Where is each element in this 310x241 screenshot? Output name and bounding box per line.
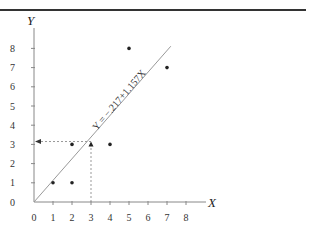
data-point: [108, 143, 112, 147]
arrowhead-icon: [35, 139, 41, 144]
y-axis-label: Y: [27, 13, 36, 28]
y-tick-label: 2: [10, 158, 15, 169]
scatter-chart: YX012345678012345678Y = −.217+1.157X: [0, 0, 310, 241]
x-axis-label: X: [207, 195, 217, 210]
x-tick-label: 2: [70, 212, 75, 223]
y-tick-label: 7: [10, 62, 15, 73]
y-tick-label: 3: [10, 139, 15, 150]
y-tick-label: 0: [10, 197, 15, 208]
data-point: [70, 143, 74, 147]
x-tick-label: 1: [51, 212, 56, 223]
data-point: [70, 181, 74, 185]
x-tick-label: 5: [127, 212, 132, 223]
x-tick-label: 3: [89, 212, 94, 223]
x-tick-label: 4: [108, 212, 113, 223]
y-tick-label: 8: [10, 43, 15, 54]
data-point: [127, 47, 131, 51]
data-point: [51, 181, 55, 185]
x-tick-label: 8: [184, 212, 189, 223]
x-tick-label: 0: [32, 212, 37, 223]
data-point: [165, 66, 169, 70]
y-tick-label: 4: [10, 120, 15, 131]
y-tick-label: 6: [10, 81, 15, 92]
x-tick-label: 6: [146, 212, 151, 223]
triangle-marker: [89, 141, 94, 146]
regression-equation: Y = −.217+1.157X: [90, 67, 148, 132]
y-tick-label: 1: [10, 177, 15, 188]
x-tick-label: 7: [165, 212, 170, 223]
y-tick-label: 5: [10, 101, 15, 112]
